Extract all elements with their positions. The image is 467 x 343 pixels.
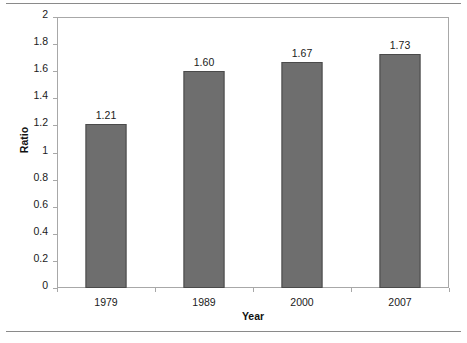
y-axis-tick-label: 1.6 xyxy=(33,63,48,73)
x-axis-tick-mark xyxy=(253,288,254,292)
bar[interactable] xyxy=(380,54,421,288)
x-axis-tick-label: 2000 xyxy=(253,296,351,308)
bar[interactable] xyxy=(86,124,127,288)
bar-value-label: 1.60 xyxy=(194,57,214,68)
bar-value-label: 1.67 xyxy=(292,48,312,59)
x-axis-title: Year xyxy=(57,310,449,322)
bar-slot: 1.67 xyxy=(253,17,351,288)
bar-slot: 1.21 xyxy=(57,17,155,288)
y-axis-tick-label: 2 xyxy=(42,9,48,19)
y-axis-tick-label: 0.4 xyxy=(33,226,48,236)
y-axis-title: Ratio xyxy=(18,110,30,170)
y-axis-tick-label: 1.2 xyxy=(33,117,48,127)
x-axis-tick-mark xyxy=(351,288,352,292)
y-axis-tick-label: 1.4 xyxy=(33,90,48,100)
x-axis-tick-mark xyxy=(155,288,156,292)
bar-value-label: 1.73 xyxy=(390,40,410,51)
bar-value-label: 1.21 xyxy=(96,110,116,121)
bar[interactable] xyxy=(282,62,323,288)
bars-layer: 1.211.601.671.73 xyxy=(57,17,449,288)
top-divider-rule xyxy=(6,3,461,4)
y-axis-tick-label: 0.2 xyxy=(33,253,48,263)
y-axis-tick-label: 1.8 xyxy=(33,36,48,46)
x-axis-tick-label: 1979 xyxy=(57,296,155,308)
y-axis-tick-label: 0 xyxy=(42,280,48,290)
x-axis-tick-label: 1989 xyxy=(155,296,253,308)
bar-slot: 1.73 xyxy=(351,17,449,288)
y-axis-tick-label: 1 xyxy=(42,145,48,155)
bottom-divider-rule xyxy=(6,331,461,332)
bar-chart-figure: 21.81.61.41.210.80.60.40.20 Ratio 1.211.… xyxy=(0,0,467,343)
x-axis-tick-mark xyxy=(57,288,58,292)
x-axis-tick-mark xyxy=(449,288,450,292)
x-axis: 1979198920002007 xyxy=(57,288,449,310)
y-axis-tick-label: 0.8 xyxy=(33,172,48,182)
x-axis-tick-label: 2007 xyxy=(351,296,449,308)
y-axis-tick-label: 0.6 xyxy=(33,199,48,209)
bar-slot: 1.60 xyxy=(155,17,253,288)
bar[interactable] xyxy=(184,71,225,288)
